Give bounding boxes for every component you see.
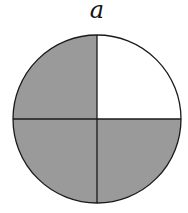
quadrant-bottom-left: [13, 119, 97, 203]
fraction-circle: [0, 0, 188, 213]
quadrant-top-left: [13, 35, 97, 119]
quadrant-bottom-right: [97, 119, 181, 203]
quadrant-top-right: [97, 35, 181, 119]
